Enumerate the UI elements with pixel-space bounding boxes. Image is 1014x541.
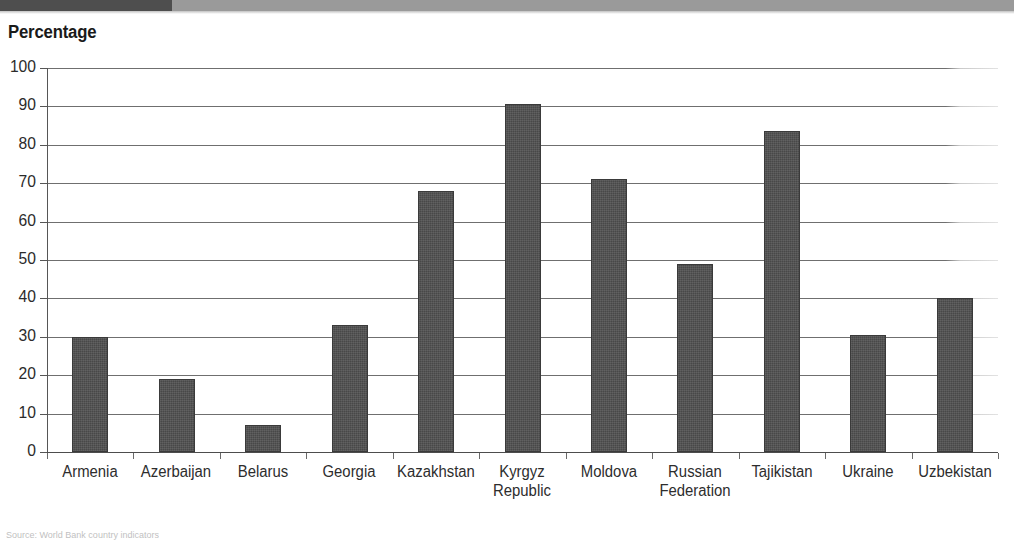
y-axis-label: 50 bbox=[3, 249, 36, 269]
y-axis-label: 100 bbox=[3, 57, 36, 77]
bar[interactable] bbox=[245, 425, 281, 452]
x-axis-line bbox=[40, 452, 998, 453]
x-axis-tick bbox=[825, 453, 826, 459]
x-axis-label: Kazakhstan bbox=[389, 462, 484, 481]
bar[interactable] bbox=[72, 337, 108, 452]
x-axis-tick bbox=[566, 453, 567, 459]
y-axis-label: 70 bbox=[3, 172, 36, 192]
bar[interactable] bbox=[764, 131, 800, 452]
x-axis-tick bbox=[739, 453, 740, 459]
source-caption: Source: World Bank country indicators bbox=[6, 530, 159, 540]
x-axis-label: Ukraine bbox=[821, 462, 916, 481]
y-axis-line bbox=[47, 68, 48, 453]
bar[interactable] bbox=[677, 264, 713, 452]
y-axis-label: 0 bbox=[3, 441, 36, 461]
x-axis-tick bbox=[220, 453, 221, 459]
y-axis-label: 40 bbox=[3, 287, 36, 307]
y-axis-tick bbox=[40, 68, 47, 69]
y-axis-tick bbox=[40, 298, 47, 299]
x-axis-label: Kyrgyz Republic bbox=[475, 462, 570, 500]
x-axis-label: Moldova bbox=[562, 462, 657, 481]
y-axis-tick bbox=[40, 145, 47, 146]
y-axis-label: 10 bbox=[3, 403, 36, 423]
bar[interactable] bbox=[591, 179, 627, 452]
bar[interactable] bbox=[418, 191, 454, 452]
x-axis-tick bbox=[133, 453, 134, 459]
y-axis-tick bbox=[40, 375, 47, 376]
y-axis-label: 80 bbox=[3, 134, 36, 154]
x-axis-label: Uzbekistan bbox=[908, 462, 1003, 481]
x-axis-tick bbox=[652, 453, 653, 459]
x-axis-label: Belarus bbox=[216, 462, 311, 481]
y-axis-tick bbox=[40, 414, 47, 415]
y-axis-tick bbox=[40, 183, 47, 184]
y-axis-label: 30 bbox=[3, 326, 36, 346]
bar[interactable] bbox=[159, 379, 195, 452]
x-axis-tick bbox=[998, 453, 999, 459]
y-axis-tick bbox=[40, 337, 47, 338]
x-axis-label: Azerbaijan bbox=[129, 462, 224, 481]
y-axis-tick bbox=[40, 222, 47, 223]
y-axis-tick bbox=[40, 106, 47, 107]
gridline bbox=[47, 68, 998, 69]
x-axis-tick bbox=[47, 453, 48, 459]
bar[interactable] bbox=[332, 325, 368, 452]
x-axis-label: Russian Federation bbox=[648, 462, 743, 500]
y-axis-tick bbox=[40, 452, 47, 453]
bar[interactable] bbox=[505, 104, 541, 452]
y-axis-tick bbox=[40, 260, 47, 261]
x-axis-tick bbox=[393, 453, 394, 459]
y-axis-label: 60 bbox=[3, 211, 36, 231]
y-axis-label: 90 bbox=[3, 95, 36, 115]
x-axis-tick bbox=[912, 453, 913, 459]
x-axis-label: Armenia bbox=[43, 462, 138, 481]
x-axis-tick bbox=[306, 453, 307, 459]
y-axis-label: 20 bbox=[3, 364, 36, 384]
bar-chart: 1009080706050403020100 ArmeniaAzerbaijan… bbox=[0, 0, 1014, 541]
bar[interactable] bbox=[850, 335, 886, 452]
x-axis-tick bbox=[479, 453, 480, 459]
x-axis-label: Georgia bbox=[302, 462, 397, 481]
x-axis-label: Tajikistan bbox=[735, 462, 830, 481]
bar[interactable] bbox=[937, 298, 973, 452]
